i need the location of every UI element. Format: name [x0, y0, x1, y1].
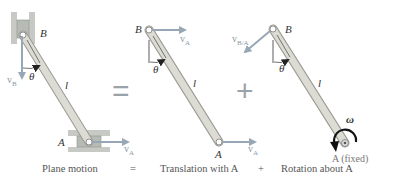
- label-B: B: [40, 28, 47, 39]
- equals-operator: =: [112, 74, 130, 108]
- label-omega: ω: [346, 114, 354, 125]
- velocity-BA-arrow: [245, 31, 270, 52]
- label-theta: θ: [279, 63, 284, 74]
- label-vA-top: vA: [180, 34, 190, 47]
- caption-plane-motion: Plane motion: [42, 163, 98, 174]
- caption-rotation: Rotation about A: [281, 163, 353, 174]
- plus-operator: +: [236, 74, 254, 108]
- pin-A: [86, 139, 92, 145]
- panel-rotation: [245, 26, 356, 152]
- caption-equals: =: [130, 163, 136, 174]
- label-length: l: [193, 78, 196, 89]
- label-theta: θ: [29, 71, 34, 82]
- caption-plus: +: [258, 163, 264, 174]
- label-B: B: [135, 24, 142, 35]
- label-B: B: [285, 24, 292, 35]
- label-vB: vB: [7, 75, 17, 88]
- caption-translation: Translation with A: [160, 163, 238, 174]
- label-A: A: [215, 149, 222, 160]
- label-vA: vA: [248, 144, 258, 157]
- label-length: l: [318, 78, 321, 89]
- label-vA: vA: [124, 144, 134, 157]
- label-A: A: [58, 137, 65, 148]
- panel-plane-motion: [11, 12, 128, 152]
- label-vBA: vB/A: [232, 34, 249, 47]
- theta-arc: [23, 66, 39, 69]
- label-theta: θ: [153, 64, 158, 75]
- label-length: l: [65, 80, 68, 91]
